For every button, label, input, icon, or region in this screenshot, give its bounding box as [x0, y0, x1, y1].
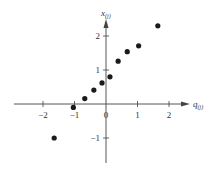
- axes: [14, 19, 190, 163]
- qq-plot: −2−1012−112 x(j) q(j): [0, 0, 221, 170]
- y-tick-label: −1: [90, 133, 100, 143]
- y-tick-label: 2: [96, 31, 101, 41]
- x-tick-label: −2: [38, 110, 48, 120]
- x-tick-label: 1: [135, 110, 140, 120]
- ticks: −2−1012−112: [38, 31, 171, 143]
- y-axis-arrow-icon: [104, 19, 109, 28]
- data-point: [82, 96, 87, 101]
- x-tick-label: 0: [104, 110, 109, 120]
- data-point: [125, 49, 130, 54]
- data-point: [52, 135, 57, 140]
- data-point: [71, 105, 76, 110]
- axis-labels: x(j) q(j): [100, 8, 203, 111]
- data-point: [136, 43, 141, 48]
- x-tick-label: 2: [167, 110, 172, 120]
- data-point: [107, 74, 112, 79]
- data-point: [91, 87, 96, 92]
- data-point: [155, 23, 160, 28]
- y-axis-label: x(j): [100, 8, 111, 20]
- data-point: [116, 59, 121, 64]
- x-tick-label: −1: [70, 110, 80, 120]
- y-tick-label: 1: [96, 65, 101, 75]
- data-point: [99, 80, 104, 85]
- x-axis-label: q(j): [193, 99, 203, 111]
- x-axis-arrow-icon: [181, 102, 190, 107]
